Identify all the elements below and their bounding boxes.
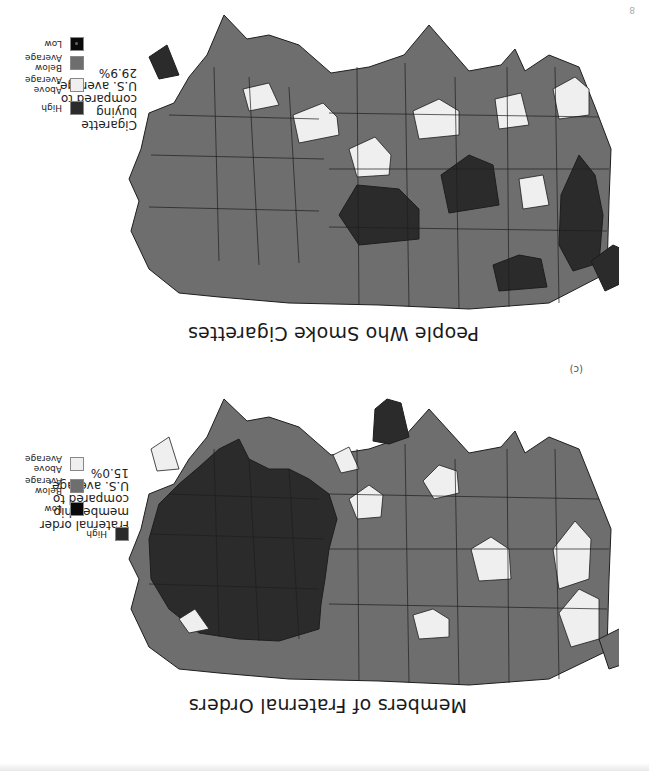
swatch-high [115,527,129,541]
swatch-below-average [70,479,84,493]
legend-label: BelowAverage [25,53,62,73]
legend-item-high: High [86,527,129,541]
label-line: Average [25,454,62,464]
scan-edge-shadow [0,763,649,771]
label-line: Average [25,476,62,486]
label-line: Average [25,75,62,85]
map-title-cigarettes: People Who Smoke Cigarettes [188,323,479,345]
swatch-above-average [70,78,84,92]
us-map-cigarette-smokers [124,5,619,325]
swatch-low [70,37,84,51]
legend-item-below-average: BelowAverage [25,476,84,496]
label-line: Below [35,63,62,73]
swatch-below-average [70,56,84,70]
legend-item-above-average: AboveAverage [25,454,84,474]
legend-label: Low [44,39,62,49]
legend-item-low: Low [44,502,84,516]
swatch-high [70,101,84,115]
legend-item-high: High [41,101,84,115]
legend-item-low: Low [44,37,84,51]
legend-label: Low [44,504,62,514]
label-line: Above [34,464,62,474]
label-line: Below [35,486,62,496]
legend-label: AboveAverage [25,454,62,474]
legend-item-below-average: BelowAverage [25,53,84,73]
swatch-dot [75,42,78,45]
page-corner-mark: 8 [629,5,635,15]
scanned-page: Members of Fraternal Orders Fratern [0,0,649,771]
label-line: Average [25,53,62,63]
legend-label: BelowAverage [25,476,62,496]
legend-label: AboveAverage [25,75,62,95]
label-line: Above [34,85,62,95]
panel-label-c: (c) [570,364,583,375]
swatch-low [70,502,84,516]
us-map-fraternal-orders [124,394,619,699]
legend-label: High [86,529,107,539]
legend-item-above-average: AboveAverage [25,75,84,95]
legend-label: High [41,103,62,113]
caption-line: Cigarette [27,118,137,131]
swatch-above-average [70,457,84,471]
